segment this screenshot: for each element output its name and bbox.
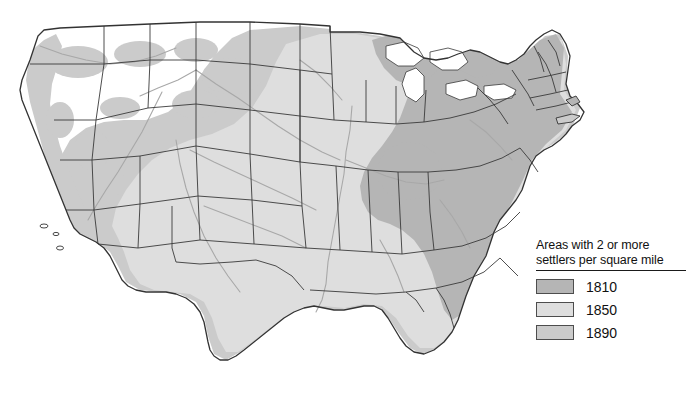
legend-title: Areas with 2 or more settlers per square… bbox=[536, 238, 688, 268]
legend-item-1810: 1810 bbox=[536, 279, 688, 294]
legend-swatch-1890 bbox=[536, 325, 574, 340]
legend-label-1810: 1810 bbox=[586, 280, 617, 294]
legend-item-1890: 1890 bbox=[536, 325, 688, 340]
legend-swatch-1850 bbox=[536, 302, 574, 317]
legend-item-1850: 1850 bbox=[536, 302, 688, 317]
legend-label-1890: 1890 bbox=[586, 326, 617, 340]
legend-label-1850: 1850 bbox=[586, 303, 617, 317]
map-legend: Areas with 2 or more settlers per square… bbox=[536, 238, 688, 340]
settlement-map-figure: Areas with 2 or more settlers per square… bbox=[0, 0, 693, 400]
legend-swatch-1810 bbox=[536, 279, 574, 294]
legend-divider bbox=[536, 270, 686, 271]
